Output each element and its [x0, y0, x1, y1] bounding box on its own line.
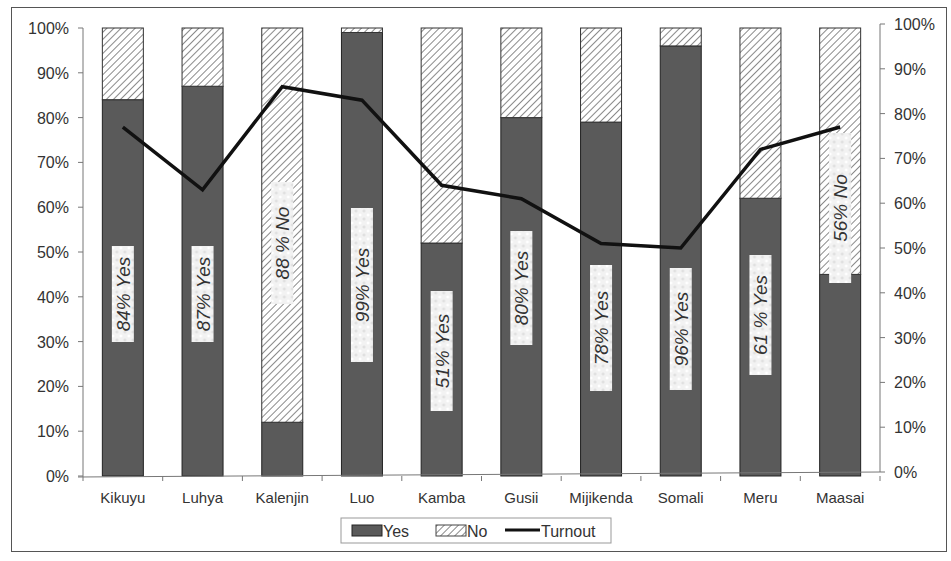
- x-category-label: Somali: [658, 489, 704, 506]
- turnout-line-series: [123, 87, 840, 248]
- y2-tick-label: 60%: [894, 195, 926, 212]
- bar-annotation: 61 % Yes: [749, 255, 771, 375]
- bar-somali: [660, 28, 701, 476]
- turnout-line: [123, 87, 840, 248]
- right-y-axis: 0%10%20%30%40%50%60%70%80%90%100%: [880, 16, 935, 481]
- bar-segment-yes: [262, 422, 303, 476]
- svg-text:78% Yes: 78% Yes: [591, 290, 612, 365]
- svg-text:84% Yes: 84% Yes: [113, 256, 134, 331]
- x-category-label: Kalenjin: [256, 489, 309, 506]
- bar-segment-no: [102, 28, 143, 100]
- bar-segment-yes: [820, 274, 861, 476]
- y-tick-label: 50%: [37, 244, 69, 261]
- svg-text:51% Yes: 51% Yes: [432, 313, 453, 388]
- svg-text:96% Yes: 96% Yes: [671, 291, 692, 366]
- bar-series: [102, 28, 860, 476]
- bar-segment-no: [501, 28, 542, 118]
- left-y-axis: 0%10%20%30%40%50%60%70%80%90%100%: [28, 20, 83, 485]
- y-tick-label: 10%: [37, 423, 69, 440]
- bar-segment-no: [182, 28, 223, 86]
- y2-tick-label: 50%: [894, 240, 926, 257]
- legend-swatch-yes: [352, 525, 382, 536]
- y2-tick-label: 10%: [894, 419, 926, 436]
- x-category-label: Kikuyu: [100, 489, 145, 506]
- y-tick-label: 30%: [37, 334, 69, 351]
- bar-meru: [740, 28, 781, 476]
- y2-tick-label: 90%: [894, 61, 926, 78]
- bar-mijikenda: [581, 28, 622, 476]
- legend-swatch-no: [436, 525, 466, 536]
- y-tick-label: 70%: [37, 154, 69, 171]
- bar-annotation: 96% Yes: [670, 268, 692, 390]
- x-category-label: Mijikenda: [569, 489, 633, 506]
- x-category-label: Luo: [349, 489, 374, 506]
- y2-tick-label: 20%: [894, 374, 926, 391]
- bar-segment-no: [581, 28, 622, 122]
- y2-tick-label: 0%: [894, 464, 917, 481]
- bar-segment-no: [740, 28, 781, 198]
- x-category-label: Kamba: [418, 489, 466, 506]
- bar-annotation: 80% Yes: [510, 231, 532, 345]
- y-tick-label: 90%: [37, 65, 69, 82]
- y2-tick-label: 70%: [894, 150, 926, 167]
- svg-text:88 % No: 88 % No: [272, 207, 293, 280]
- y2-tick-label: 100%: [894, 16, 935, 33]
- y-tick-label: 60%: [37, 199, 69, 216]
- bar-annotation: 87% Yes: [192, 246, 214, 342]
- stacked-bar-turnout-chart: 0%10%20%30%40%50%60%70%80%90%100% 0%10%2…: [0, 0, 951, 561]
- legend-label-yes: Yes: [383, 523, 409, 540]
- y2-tick-label: 80%: [894, 106, 926, 123]
- svg-text:87% Yes: 87% Yes: [193, 256, 214, 331]
- y-tick-label: 0%: [46, 468, 69, 485]
- x-category-label: Meru: [743, 489, 777, 506]
- svg-text:56% No: 56% No: [830, 174, 851, 242]
- bar-segment-yes: [660, 46, 701, 476]
- y-tick-label: 80%: [37, 110, 69, 127]
- legend-label-no: No: [467, 523, 488, 540]
- y2-tick-label: 30%: [894, 330, 926, 347]
- bar-annotation: 78% Yes: [590, 265, 612, 391]
- svg-text:61 % Yes: 61 % Yes: [750, 275, 771, 355]
- y-tick-label: 100%: [28, 20, 69, 37]
- bar-segment-no: [421, 28, 462, 243]
- bar-segment-no: [660, 28, 701, 46]
- svg-text:80% Yes: 80% Yes: [511, 250, 532, 325]
- svg-text:99% Yes: 99% Yes: [352, 247, 373, 322]
- y-tick-label: 40%: [37, 289, 69, 306]
- bar-segment-no: [341, 28, 382, 32]
- legend: YesNoTurnout: [341, 518, 611, 543]
- bar-annotation: 51% Yes: [431, 291, 453, 411]
- bar-annotation: 88 % No: [271, 182, 293, 304]
- x-category-label: Gusii: [504, 489, 538, 506]
- bar-annotation: 84% Yes: [112, 246, 134, 342]
- legend-label-turnout: Turnout: [541, 523, 596, 540]
- x-axis: KikuyuLuhyaKalenjinLuoKambaGusiiMijikend…: [78, 472, 880, 506]
- bar-annotation: 56% No: [829, 133, 851, 283]
- y-tick-label: 20%: [37, 378, 69, 395]
- x-category-label: Luhya: [182, 489, 224, 506]
- bar-annotation: 99% Yes: [351, 208, 373, 362]
- x-category-label: Maasai: [816, 489, 864, 506]
- y2-tick-label: 40%: [894, 285, 926, 302]
